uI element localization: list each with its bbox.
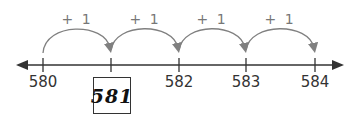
jump-arc-1 — [43, 29, 110, 53]
jump-arc-2 — [111, 29, 178, 50]
number-line-graphic — [0, 0, 360, 120]
jump-label-3: + 1 — [196, 11, 227, 27]
tick-label-583: 583 — [232, 73, 261, 91]
left-arrow-icon — [16, 60, 28, 70]
jump-label-2: + 1 — [129, 11, 160, 27]
jump-arc-3 — [179, 29, 245, 50]
tick-label-580: 580 — [29, 73, 58, 91]
tick-label-582: 582 — [165, 73, 194, 91]
answer-box: 581 — [93, 77, 131, 114]
right-arrow-icon — [332, 60, 344, 70]
jump-label-1: + 1 — [61, 11, 92, 27]
jump-label-4: + 1 — [264, 11, 295, 27]
answer-handwritten-value: 581 — [91, 85, 134, 107]
tick-label-584: 584 — [301, 73, 330, 91]
jump-arc-4 — [246, 29, 314, 50]
